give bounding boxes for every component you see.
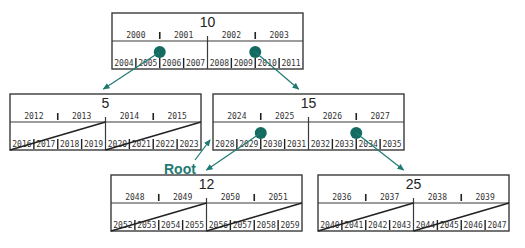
pointer-label: 2047 <box>487 221 506 230</box>
pointer-label: 2058 <box>257 221 276 230</box>
key-label: 2013 <box>72 112 91 121</box>
pointer-label: 2022 <box>156 140 175 149</box>
pointer-label: 2010 <box>258 59 277 68</box>
pointer-label: 2046 <box>464 221 483 230</box>
pointer-label: 2031 <box>287 140 306 149</box>
key-label: 2014 <box>120 112 139 121</box>
tree-node-n5: 5201220132014201520162017201820192020202… <box>10 94 201 150</box>
tree-node-n10: 1020002001200220032004200520062007200820… <box>112 13 303 69</box>
pointer-label: 2011 <box>281 59 300 68</box>
key-label: 2015 <box>167 112 186 121</box>
node-title: 25 <box>406 176 422 192</box>
key-label: 2027 <box>370 112 389 121</box>
pointer-label: 2033 <box>335 140 354 149</box>
pointer-label: 2023 <box>179 140 198 149</box>
pointer-label: 2006 <box>162 59 181 68</box>
key-label: 2025 <box>275 112 294 121</box>
key-label: 2012 <box>24 112 43 121</box>
key-label: 2037 <box>380 193 399 202</box>
root-label: Root <box>164 161 196 177</box>
key-label: 2051 <box>268 193 287 202</box>
pointer-label: 2042 <box>368 221 387 230</box>
key-label: 2003 <box>269 31 288 40</box>
node-title: 12 <box>199 176 215 192</box>
pointer-label: 2043 <box>392 221 411 230</box>
node-title: 10 <box>200 14 216 30</box>
pointer-label: 2008 <box>210 59 229 68</box>
pointer-label: 2032 <box>311 140 330 149</box>
key-label: 2038 <box>428 193 447 202</box>
pointer-label: 2059 <box>280 221 299 230</box>
node-title: 5 <box>102 95 110 111</box>
key-label: 2000 <box>126 31 145 40</box>
pointer-label: 2019 <box>84 140 103 149</box>
pointer-label: 2035 <box>382 140 401 149</box>
key-label: 2036 <box>332 193 351 202</box>
pointer-label: 2009 <box>234 59 253 68</box>
btree-diagram: 1020002001200220032004200520062007200820… <box>0 0 525 248</box>
pointer-label: 2054 <box>161 221 180 230</box>
tree-node-n15: 1520242025202620272028202920302031203220… <box>213 94 404 150</box>
key-label: 2039 <box>475 193 494 202</box>
key-label: 2049 <box>173 193 192 202</box>
pointer-label: 2030 <box>263 140 282 149</box>
pointer-label: 2018 <box>60 140 79 149</box>
key-label: 2001 <box>174 31 193 40</box>
key-label: 2002 <box>222 31 241 40</box>
pointer-label: 2004 <box>114 59 133 68</box>
pointer-label: 2055 <box>185 221 204 230</box>
key-label: 2024 <box>227 112 246 121</box>
pointer-label: 2028 <box>215 140 234 149</box>
pointer-label: 2007 <box>186 59 205 68</box>
tree-node-n25: 2520362037203820392040204120422043204420… <box>318 175 509 231</box>
key-label: 2048 <box>125 193 144 202</box>
tree-node-n12: 1220482049205020512052205320542055205620… <box>111 175 302 231</box>
key-label: 2050 <box>221 193 240 202</box>
key-label: 2026 <box>323 112 342 121</box>
node-title: 15 <box>301 95 317 111</box>
